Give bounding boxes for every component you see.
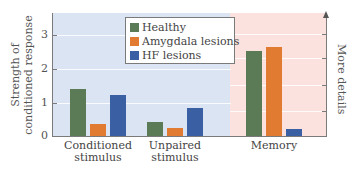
legend-item-hf: HF lesions [130,48,230,62]
memory-tick [322,111,326,112]
y-axis-label-line2: conditioned response [22,15,35,135]
legend-item-amygdala: Amygdala lesions [130,34,230,48]
y-tick-label-3: 3 [34,29,48,41]
legend-label: Healthy [142,21,186,34]
legend-label: HF lesions [142,49,201,62]
memory-tick [322,58,326,59]
memory-axis [326,16,327,137]
legend: Healthy Amygdala lesions HF lesions [125,17,235,64]
memory-gridline-4 [230,34,326,35]
legend-item-healthy: Healthy [130,20,230,34]
bar-cs-amygdala [90,124,106,136]
memory-tick [322,85,326,86]
arrow-up-icon [323,11,329,18]
bar-mem-healthy [246,51,262,136]
bar-cs-healthy [70,89,86,136]
y-tick-2 [53,69,57,70]
gridline-2 [53,69,231,70]
category-label-memory: Memory [234,140,314,152]
y-axis [52,13,53,137]
bar-us-hf [187,108,203,136]
more-details-label: More details [335,44,348,114]
bar-us-healthy [147,122,163,136]
legend-swatch-amygdala [130,37,139,46]
chart: 3 2 1 0 Strength of conditioned response… [0,0,360,171]
legend-swatch-hf [130,51,139,60]
category-label-line: stimulus [58,152,138,164]
y-tick-3 [53,35,57,36]
y-tick-1 [53,103,57,104]
x-axis-left [52,136,231,137]
category-label-unpaired: Unpaired stimulus [135,140,215,164]
legend-swatch-healthy [130,23,139,32]
bar-mem-amygdala [266,47,282,136]
y-tick-label-1: 1 [34,97,48,109]
y-tick-label-2: 2 [34,63,48,75]
y-axis-label: Strength of conditioned response [9,15,35,135]
bar-us-amygdala [167,128,183,136]
memory-tick [322,34,326,35]
category-label-line: stimulus [135,152,215,164]
bar-mem-hf [286,129,302,136]
category-label-conditioned: Conditioned stimulus [58,140,138,164]
legend-label: Amygdala lesions [142,35,239,48]
x-axis-right [230,136,327,137]
y-axis-label-line1: Strength of [9,15,22,135]
y-tick-label-0: 0 [34,130,48,142]
bar-cs-hf [110,95,126,136]
